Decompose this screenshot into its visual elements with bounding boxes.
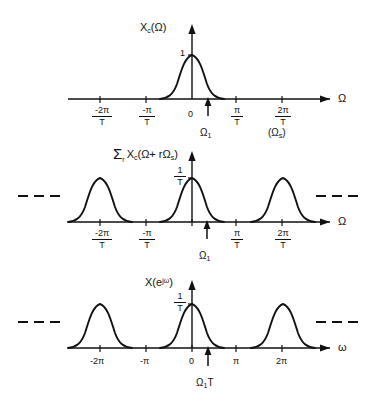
y-axis-title-panel3: X(ejω) — [145, 277, 173, 288]
tick-label-panel1-4: 2π T — [275, 106, 291, 127]
tick-label-numerator: π — [231, 229, 243, 238]
peak-label-numerator: 1 — [174, 166, 186, 175]
tick-label-panel3-4: 2π — [276, 357, 287, 366]
tick-label-panel3-2: 0 — [189, 357, 194, 366]
panel-replicated-spectrum — [18, 151, 358, 239]
x-axis-title-panel1: Ω — [338, 93, 346, 104]
sampling-spectra-figure — [0, 0, 370, 402]
spectrum-curve-panel2-right — [251, 178, 315, 222]
panel-discrete-time-spectrum — [18, 280, 358, 366]
x-axis-arrowhead-panel2 — [320, 218, 330, 225]
spectrum-curve-panel2-left — [68, 178, 132, 222]
tick-label-panel2-3: π T — [231, 229, 243, 250]
spectrum-curve-panel3-right — [251, 304, 315, 348]
y-axis-title-panel2: ΣrXc(Ω+ rΩs) — [113, 146, 178, 163]
y-axis-arrowhead-panel3 — [188, 280, 195, 290]
tick-label-denominator: T — [275, 241, 291, 250]
omega-s-label-panel1: (Ωs) — [268, 128, 286, 139]
tick-label-panel2-0: -2π T — [92, 229, 112, 250]
tick-label-denominator: T — [139, 241, 155, 250]
omega1T-label-panel3: Ω1T — [196, 378, 214, 389]
tick-label-panel3-1: -π — [140, 357, 149, 366]
tick-label-panel1-2: 0 — [188, 110, 193, 119]
omega1-label-panel2: Ω1 — [199, 251, 210, 262]
tick-label-panel1-0: -2π T — [92, 106, 112, 127]
x-axis-title-panel3: ω — [338, 342, 347, 353]
omega1-label-panel1: Ω1 — [200, 128, 211, 139]
peak-value-label-panel1: 1 — [180, 49, 185, 58]
x-axis-title-panel2: Ω — [338, 216, 346, 227]
y-axis-title-panel1: Xc(Ω) — [140, 22, 166, 34]
tick-label-panel2-1: -π T — [139, 229, 155, 250]
omega1-arrow-panel1 — [205, 97, 212, 116]
x-axis-arrowhead-panel3 — [320, 344, 330, 351]
tick-label-denominator: T — [275, 118, 291, 127]
omega1-arrow-panel2 — [204, 220, 211, 239]
tick-label-denominator: T — [139, 118, 155, 127]
y-axis-arrowhead-panel2 — [188, 151, 195, 161]
tick-label-denominator: T — [231, 241, 243, 250]
tick-label-panel1-1: -π T — [139, 106, 155, 127]
peak-label-denominator: T — [174, 178, 186, 187]
tick-label-numerator: -2π — [92, 106, 112, 115]
tick-label-panel3-0: -2π — [90, 357, 104, 366]
peak-value-label-panel2: 1 T — [174, 166, 186, 187]
tick-label-numerator: -π — [139, 229, 155, 238]
tick-label-denominator: T — [92, 118, 112, 127]
panel-continuous-spectrum — [68, 24, 330, 116]
tick-label-numerator: -π — [139, 106, 155, 115]
tick-label-numerator: 2π — [275, 106, 291, 115]
tick-label-panel3-3: π — [233, 357, 239, 366]
peak-label-denominator: T — [174, 304, 186, 313]
x-axis-arrowhead-panel1 — [320, 95, 330, 102]
tick-label-panel2-4: 2π T — [275, 229, 291, 250]
omega1T-arrow-panel3 — [205, 346, 212, 366]
spectrum-curve-panel3-left — [68, 304, 132, 348]
peak-label-numerator: 1 — [174, 292, 186, 301]
tick-label-denominator: T — [92, 241, 112, 250]
tick-label-panel1-3: π T — [231, 106, 243, 127]
peak-value-label-panel3: 1 T — [174, 292, 186, 313]
tick-label-numerator: -2π — [92, 229, 112, 238]
tick-label-denominator: T — [231, 118, 243, 127]
tick-label-numerator: π — [231, 106, 243, 115]
y-axis-arrowhead-panel1 — [188, 24, 195, 34]
tick-label-numerator: 2π — [275, 229, 291, 238]
